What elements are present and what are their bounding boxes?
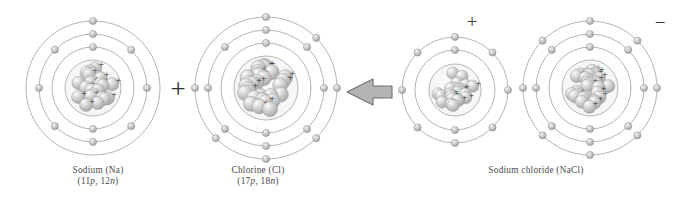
svg-text:+: + — [603, 88, 609, 99]
svg-text:+: + — [116, 75, 122, 86]
diagram-canvas: ++++++++++++++++++++++++++++++++++++++++… — [0, 0, 683, 197]
svg-text:+: + — [469, 90, 474, 100]
reaction-arrow — [347, 79, 392, 105]
svg-text:+: + — [89, 96, 95, 107]
svg-text:+: + — [111, 89, 117, 100]
caption-chlorine-name: Chlorine (Cl) — [231, 165, 284, 175]
svg-text:+: + — [598, 93, 604, 104]
sodium-atom: ++++++++++++ — [26, 17, 160, 155]
atoms-layer: ++++++++++++++++++++++++++++++++++++++++… — [26, 13, 661, 162]
charge-sign-sodium-ion: + — [462, 12, 482, 31]
caption-sodium-chloride: Sodium chloride (NaCl) — [400, 165, 672, 176]
sodium-ion: ++++++++++++ — [398, 33, 511, 146]
plus-operator: + — [165, 76, 191, 103]
chloride-ion: +++++++++++++++ — [519, 17, 660, 158]
chlorine-atom: +++++++++++++++ — [191, 13, 340, 162]
svg-text:+: + — [287, 71, 293, 83]
charge-sign-chloride-ion: − — [650, 13, 670, 32]
svg-text:+: + — [82, 88, 88, 99]
svg-text:+: + — [593, 98, 599, 109]
caption-product-name: Sodium chloride (NaCl) — [488, 165, 583, 175]
caption-chlorine-nucleus: (17p, 18n) — [160, 176, 356, 187]
svg-text:+: + — [476, 78, 481, 88]
caption-sodium-name: Sodium (Na) — [72, 165, 123, 175]
caption-chlorine: Chlorine (Cl) (17p, 18n) — [160, 165, 356, 188]
